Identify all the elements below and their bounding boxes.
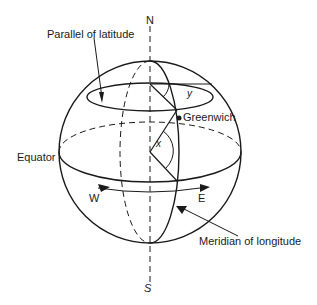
back-meridian [120,61,150,243]
east-label: E [198,193,205,204]
north-label: N [146,15,154,26]
angle-y-label: y [187,89,192,99]
south-label: S [144,283,151,294]
west-label: W [89,193,99,204]
greenwich-label: Greenwich [183,112,236,123]
greenwich-point [177,116,182,121]
equator-label: Equator [17,152,56,163]
meridian-of-longitude-label: Meridian of longitude [199,236,301,247]
angle-x-label: x [156,139,161,149]
parallel-of-latitude-label: Parallel of latitude [47,29,134,40]
